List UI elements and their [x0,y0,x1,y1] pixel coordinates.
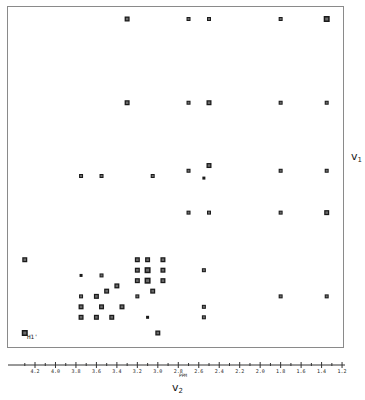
x-tick-label: 4.0 [51,368,60,374]
cross-peak [279,294,283,298]
y-axis-label: v1 [351,150,362,164]
x-axis-label: v2 [172,381,183,395]
cross-peak [206,163,211,168]
cross-peak [145,278,151,284]
cross-peak [206,100,211,105]
cross-peak [135,294,139,298]
x-tick-label: 4.2 [30,368,39,374]
cross-peak [324,210,329,215]
x-tick-label: 2.6 [194,368,203,374]
cross-peak [155,331,160,336]
cross-peak [150,289,155,294]
cross-peak [94,294,99,299]
cross-peak [125,17,130,22]
cross-peak [145,267,151,273]
cross-peak [109,315,114,320]
cross-peak [202,305,206,309]
cross-peak [80,274,83,277]
x-axis: 4.24.03.83.63.43.23.02.82.62.42.22.01.81… [0,360,365,382]
cross-peak [187,211,191,215]
cross-peak [135,268,140,273]
x-tick-label: 3.0 [153,368,162,374]
x-tick-label: 1.6 [297,368,306,374]
x-tick-label: 3.4 [112,368,121,374]
cross-peak [146,316,149,319]
x-tick-label: 1.2 [338,368,347,374]
cross-peak [22,257,27,262]
cross-peak [79,315,84,320]
ppm-unit-label: PPM [179,373,187,378]
x-tick-label: 2.4 [215,368,224,374]
cross-peak [100,273,104,277]
x-tick-label: 3.8 [71,368,80,374]
cross-peak [114,283,119,288]
cross-peak [187,17,191,21]
cross-peak [279,169,283,173]
cross-peak [145,257,150,262]
x-tick-label: 2.0 [256,368,265,374]
cross-peak [279,17,283,21]
cross-peak [160,268,165,273]
cross-peak [104,289,109,294]
cross-peak [100,174,104,178]
cross-peak [187,101,191,105]
x-tick-label: 2.2 [235,368,244,374]
cross-peak [160,278,165,283]
x-tick-label: 1.4 [317,368,326,374]
cross-peak [160,257,165,262]
cross-peak [325,101,329,105]
cross-peak [187,169,191,173]
cross-peak [135,257,140,262]
cross-peak [202,315,206,319]
cross-peak [119,304,124,309]
cross-peak [202,268,206,272]
cross-peak [79,174,83,178]
cross-peak [135,278,140,283]
cross-peak [325,169,329,173]
cross-peak [125,100,130,105]
x-tick-label: 3.2 [133,368,142,374]
cross-peak [207,17,211,21]
contour-peaks [0,0,365,400]
cross-peak [94,315,99,320]
cross-peak [325,294,329,298]
cross-peak [279,211,283,215]
x-tick-label: 1.8 [276,368,285,374]
x-tick-label: 3.6 [92,368,101,374]
cross-peak [151,174,155,178]
cross-peak [99,304,104,309]
h1-prime-annotation: H1' [27,333,38,340]
cross-peak [207,211,211,215]
cross-peak [79,294,83,298]
cross-peak [202,177,205,180]
cross-peak [324,16,330,22]
cross-peak [79,304,84,309]
cross-peak [279,101,283,105]
